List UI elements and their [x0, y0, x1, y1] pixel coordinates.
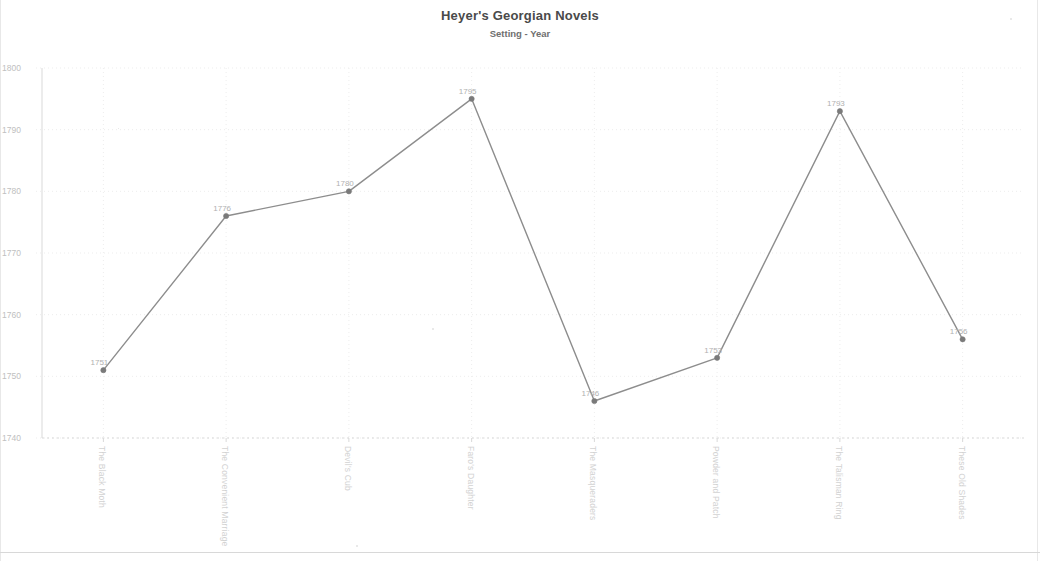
- x-axis-tick-label: The Black Moth: [97, 446, 107, 508]
- data-point-value-label: 1746: [581, 389, 599, 398]
- data-point-value-label: 1793: [827, 99, 845, 108]
- x-axis-tick-label: The Talisman Ring: [834, 446, 844, 520]
- y-axis-tick-label: 1740: [2, 433, 21, 443]
- data-point-value-label: 1780: [336, 179, 354, 188]
- data-markers-group: [101, 96, 965, 403]
- data-point-value-label: 1753: [704, 346, 722, 355]
- data-point-marker: [592, 398, 597, 403]
- data-point-marker: [960, 337, 965, 342]
- data-point-marker: [346, 189, 351, 194]
- data-point-value-label: 1751: [90, 358, 108, 367]
- data-point-value-label: 1795: [459, 87, 477, 96]
- data-point-marker: [101, 368, 106, 373]
- scan-speck: [432, 328, 434, 330]
- y-axis-tick-label: 1800: [2, 63, 21, 73]
- data-line-group: [103, 99, 962, 401]
- scan-speck: [356, 545, 358, 547]
- data-point-marker: [224, 213, 229, 218]
- chart-title: Heyer's Georgian Novels: [0, 8, 1040, 23]
- y-axis-tick-label: 1760: [2, 310, 21, 320]
- page-left-border: [0, 0, 1, 561]
- x-axis-tick-label: Devil's Cub: [343, 446, 353, 491]
- scan-speck: [118, 128, 119, 129]
- data-point-value-label: 1776: [213, 204, 231, 213]
- x-axis-tick-label: Faro's Daughter: [466, 446, 476, 510]
- axes-group: [42, 68, 1024, 442]
- chart-subtitle: Setting - Year: [0, 28, 1040, 39]
- chart-canvas: [0, 0, 1040, 561]
- series-line: [103, 99, 962, 401]
- x-axis-tick-label: The Convenient Marriage: [220, 446, 230, 547]
- data-point-value-label: 1756: [950, 327, 968, 336]
- y-axis-tick-label: 1750: [2, 371, 21, 381]
- data-point-marker: [837, 109, 842, 114]
- data-point-marker: [715, 355, 720, 360]
- y-axis-tick-label: 1770: [2, 248, 21, 258]
- x-axis-tick-label: Powder and Patch: [711, 446, 721, 519]
- scan-speck: [1010, 18, 1012, 20]
- y-axis-tick-label: 1780: [2, 186, 21, 196]
- page-right-border: [1037, 0, 1038, 561]
- page-bottom-border: [0, 552, 1040, 553]
- gridlines-group: [36, 68, 1024, 438]
- y-axis-tick-label: 1790: [2, 125, 21, 135]
- x-axis-tick-label: The Masqueraders: [588, 446, 598, 521]
- data-point-marker: [469, 96, 474, 101]
- x-axis-tick-label: These Old Shades: [957, 446, 967, 520]
